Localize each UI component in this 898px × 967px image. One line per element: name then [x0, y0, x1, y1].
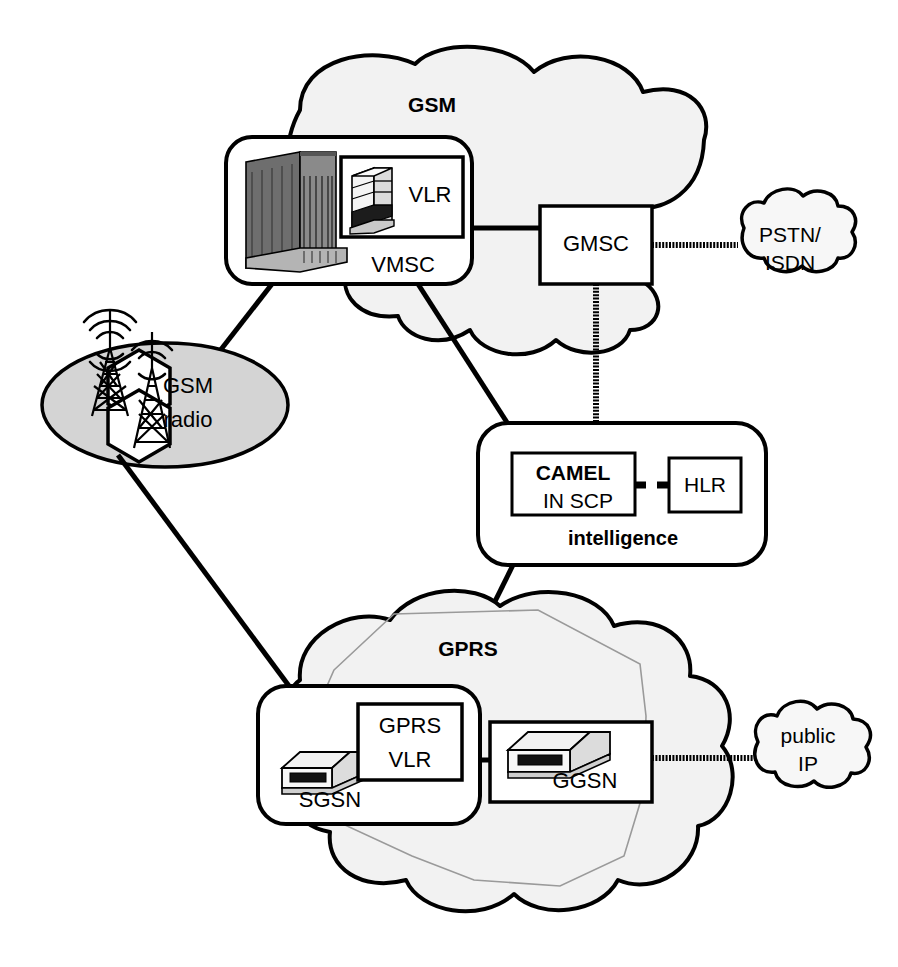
cloud-gprs-label: GPRS: [438, 637, 498, 660]
public-ip-label-line1: public: [781, 724, 836, 747]
diagram-canvas: VLR VMSC GSM GMSC PSTN/ ISDN: [0, 0, 898, 967]
node-vmsc[interactable]: VLR VMSC: [226, 137, 472, 284]
public-ip-label-line2: IP: [798, 752, 818, 775]
cloud-pstn-isdn: PSTN/ ISDN: [742, 189, 856, 274]
tower-server-icon: [350, 168, 394, 234]
ggsn-label: GGSN: [553, 768, 618, 793]
node-vlr[interactable]: VLR: [341, 157, 463, 237]
node-hlr[interactable]: HLR: [669, 458, 741, 512]
gsm-radio-label-line2: radio: [164, 407, 213, 432]
cloud-public-ip: public IP: [755, 701, 871, 787]
node-gprs-vlr[interactable]: GPRS VLR: [358, 704, 462, 780]
link-gsmradio-sgsn: [118, 455, 292, 690]
gprs-vlr-label-line2: VLR: [389, 747, 432, 772]
node-ggsn[interactable]: GGSN: [490, 722, 652, 802]
gprs-vlr-label-line1: GPRS: [379, 713, 441, 738]
sgsn-label: SGSN: [299, 787, 361, 812]
node-sgsn[interactable]: GPRS VLR SGSN: [258, 686, 480, 824]
node-intelligence[interactable]: CAMEL IN SCP HLR intelligence: [478, 423, 766, 565]
pstn-label-line2: ISDN: [765, 251, 815, 274]
vmsc-label: VMSC: [371, 252, 435, 277]
hlr-label: HLR: [684, 473, 726, 496]
network-diagram-svg: VLR VMSC GSM GMSC PSTN/ ISDN: [0, 0, 898, 967]
gsm-radio-label-line1: GSM: [163, 373, 213, 398]
in-scp-label: IN SCP: [543, 489, 613, 512]
pstn-label-line1: PSTN/: [759, 223, 821, 246]
intelligence-label: intelligence: [568, 527, 678, 549]
switch-cabinet-icon: [246, 152, 347, 272]
node-gsm-radio[interactable]: GSM radio: [42, 310, 288, 467]
camel-label: CAMEL: [536, 461, 611, 484]
node-gmsc[interactable]: GMSC: [540, 206, 652, 284]
gmsc-label: GMSC: [563, 231, 629, 256]
node-camel-in-scp[interactable]: CAMEL IN SCP: [512, 453, 635, 515]
vlr-label: VLR: [409, 182, 452, 207]
cloud-gsm-label: GSM: [408, 93, 456, 116]
